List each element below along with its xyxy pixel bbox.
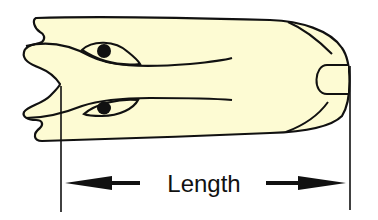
tip-notch [316,65,348,94]
length-diagram: Length [0,0,378,220]
left-arrow-head [65,176,112,190]
right-arrow-head [298,176,346,190]
upper-eye-pupil [97,44,111,58]
length-label: Length [167,170,240,197]
lower-eye-pupil [97,102,111,115]
body-outline [24,17,350,141]
